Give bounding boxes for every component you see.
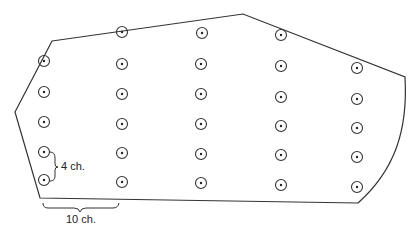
marker-dot-icon (280, 125, 282, 127)
marker-grid (39, 27, 363, 193)
marker-dot-icon (201, 32, 203, 34)
shape-diagram (0, 0, 419, 236)
vertical-spacing-brace (50, 152, 58, 181)
marker-dot-icon (356, 156, 358, 158)
marker-dot-icon (121, 93, 123, 95)
marker-dot-icon (43, 151, 45, 153)
marker-dot-icon (200, 63, 202, 65)
horizontal-spacing-brace (43, 203, 119, 212)
marker-dot-icon (280, 154, 282, 156)
marker-dot-icon (356, 98, 358, 100)
marker-dot-icon (356, 67, 358, 69)
marker-dot-icon (43, 60, 45, 62)
vertical-spacing-label: 4 ch. (61, 160, 85, 172)
marker-dot-icon (356, 127, 358, 129)
marker-dot-icon (200, 153, 202, 155)
marker-dot-icon (280, 184, 282, 186)
marker-dot-icon (121, 181, 123, 183)
marker-dot-icon (43, 91, 45, 93)
marker-dot-icon (43, 179, 45, 181)
marker-dot-icon (356, 186, 358, 188)
marker-dot-icon (121, 63, 123, 65)
marker-dot-icon (121, 31, 123, 33)
horizontal-spacing-label: 10 ch. (66, 213, 96, 225)
marker-dot-icon (280, 96, 282, 98)
marker-dot-icon (43, 121, 45, 123)
marker-dot-icon (200, 182, 202, 184)
shape-outline (15, 14, 405, 203)
marker-dot-icon (121, 152, 123, 154)
marker-dot-icon (121, 123, 123, 125)
marker-dot-icon (280, 65, 282, 67)
marker-dot-icon (200, 93, 202, 95)
marker-dot-icon (280, 34, 282, 36)
marker-dot-icon (200, 123, 202, 125)
